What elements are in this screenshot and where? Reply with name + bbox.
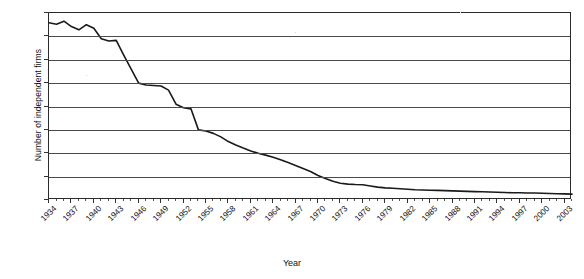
x-tick-label-1952: 1952 xyxy=(165,204,193,232)
x-tick-1985 xyxy=(429,199,430,203)
x-tick-1966 xyxy=(287,199,288,201)
x-tick-label-1988: 1988 xyxy=(434,204,462,232)
x-tick-1961 xyxy=(250,199,251,203)
scan-speck xyxy=(295,32,296,33)
scan-speck xyxy=(460,12,461,13)
gridline-y-300 xyxy=(49,130,570,131)
x-tick-1971 xyxy=(324,199,325,201)
x-tick-1991 xyxy=(474,199,475,203)
x-tick-2003 xyxy=(564,199,565,203)
y-tick-700 xyxy=(44,35,49,36)
x-tick-1958 xyxy=(227,199,228,203)
x-tick-1964 xyxy=(272,199,273,203)
x-tick-1978 xyxy=(377,199,378,201)
x-tick-1935 xyxy=(56,199,57,201)
x-tick-label-1958: 1958 xyxy=(210,204,238,232)
x-tick-1938 xyxy=(78,199,79,201)
x-tick-label-1973: 1973 xyxy=(322,204,350,232)
x-tick-1977 xyxy=(369,199,370,201)
x-tick-label-1997: 1997 xyxy=(501,204,529,232)
gridline-y-200 xyxy=(49,153,570,154)
x-tick-1940 xyxy=(93,199,94,203)
x-tick-1968 xyxy=(302,199,303,201)
x-tick-label-1982: 1982 xyxy=(389,204,417,232)
gridline-y-600 xyxy=(49,60,570,61)
x-tick-1945 xyxy=(130,199,131,201)
y-tick-600 xyxy=(44,59,49,60)
x-tick-1941 xyxy=(100,199,101,201)
x-tick-1949 xyxy=(160,199,161,203)
y-tick-400 xyxy=(44,106,49,107)
x-tick-1937 xyxy=(70,199,71,203)
x-tick-1996 xyxy=(511,199,512,201)
x-tick-1995 xyxy=(504,199,505,201)
x-tick-1993 xyxy=(489,199,490,201)
x-tick-1984 xyxy=(422,199,423,201)
x-tick-label-1937: 1937 xyxy=(53,204,81,232)
gridline-y-100 xyxy=(49,177,570,178)
x-tick-1960 xyxy=(242,199,243,201)
x-tick-1979 xyxy=(384,199,385,203)
y-tick-300 xyxy=(44,129,49,130)
x-tick-1955 xyxy=(205,199,206,203)
x-tick-2002 xyxy=(556,199,557,201)
x-tick-label-1967: 1967 xyxy=(277,204,305,232)
x-tick-1989 xyxy=(459,199,460,201)
x-tick-label-1946: 1946 xyxy=(120,204,148,232)
x-tick-1999 xyxy=(534,199,535,201)
x-tick-1997 xyxy=(519,199,520,203)
y-tick-500 xyxy=(44,82,49,83)
x-tick-1994 xyxy=(496,199,497,203)
y-axis-title: Number of independent firms xyxy=(33,5,43,205)
x-tick-1988 xyxy=(452,199,453,203)
x-tick-1980 xyxy=(392,199,393,201)
x-tick-1976 xyxy=(362,199,363,203)
x-tick-1934 xyxy=(48,199,49,203)
x-tick-label-1961: 1961 xyxy=(232,204,260,232)
x-tick-1953 xyxy=(190,199,191,201)
x-tick-1981 xyxy=(399,199,400,201)
scan-speck xyxy=(86,75,87,76)
x-tick-1973 xyxy=(339,199,340,203)
x-tick-1950 xyxy=(168,199,169,201)
x-tick-1947 xyxy=(145,199,146,201)
x-tick-1943 xyxy=(115,199,116,203)
x-tick-1962 xyxy=(257,199,258,201)
x-tick-1983 xyxy=(414,199,415,201)
x-tick-1969 xyxy=(310,199,311,201)
x-tick-1987 xyxy=(444,199,445,201)
x-tick-label-2003: 2003 xyxy=(546,204,574,232)
x-tick-1948 xyxy=(153,199,154,201)
x-tick-1936 xyxy=(63,199,64,201)
x-tick-1972 xyxy=(332,199,333,201)
gridline-y-700 xyxy=(49,36,570,37)
x-tick-1957 xyxy=(220,199,221,201)
plot-area xyxy=(48,12,571,199)
chart-container: Number of independent firms Year 0100200… xyxy=(0,0,584,279)
x-tick-1998 xyxy=(526,199,527,201)
x-tick-1952 xyxy=(183,199,184,203)
y-tick-100 xyxy=(44,176,49,177)
gridline-y-500 xyxy=(49,83,570,84)
x-tick-1975 xyxy=(354,199,355,201)
x-tick-1959 xyxy=(235,199,236,201)
x-tick-2001 xyxy=(549,199,550,201)
y-tick-200 xyxy=(44,152,49,153)
x-tick-1942 xyxy=(108,199,109,201)
x-tick-1944 xyxy=(123,199,124,201)
x-tick-2000 xyxy=(541,199,542,203)
x-tick-1956 xyxy=(212,199,213,201)
y-tick-800 xyxy=(44,12,49,13)
x-axis-title: Year xyxy=(0,258,584,268)
x-tick-1967 xyxy=(295,199,296,203)
x-tick-2004 xyxy=(571,199,572,201)
x-tick-1982 xyxy=(407,199,408,203)
x-tick-1963 xyxy=(265,199,266,201)
x-tick-1974 xyxy=(347,199,348,201)
x-tick-1990 xyxy=(466,199,467,201)
x-tick-1951 xyxy=(175,199,176,201)
x-tick-1992 xyxy=(481,199,482,201)
x-tick-label-1994: 1994 xyxy=(479,204,507,232)
x-tick-1970 xyxy=(317,199,318,203)
x-tick-1965 xyxy=(280,199,281,201)
